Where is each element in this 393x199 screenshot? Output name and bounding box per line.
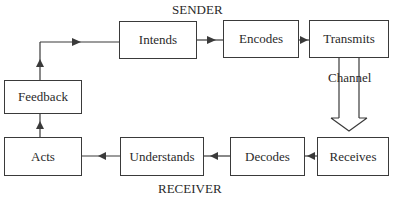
arrow-to-intends xyxy=(72,38,81,46)
box-transmits-label: Transmits xyxy=(323,31,375,47)
box-encodes: Encodes xyxy=(223,20,299,58)
arrow-to-transmits xyxy=(300,36,308,44)
box-transmits: Transmits xyxy=(309,20,389,58)
box-acts: Acts xyxy=(4,137,82,176)
channel-label: Channel xyxy=(328,70,371,86)
box-decodes: Decodes xyxy=(230,137,305,176)
box-receives: Receives xyxy=(317,137,389,176)
box-intends: Intends xyxy=(119,21,197,59)
arrow-to-understands xyxy=(210,152,218,160)
arrow-to-feedback xyxy=(36,121,44,129)
sender-title: SENDER xyxy=(172,2,223,18)
box-acts-label: Acts xyxy=(31,149,55,165)
receiver-title: RECEIVER xyxy=(158,181,222,197)
box-understands-label: Understands xyxy=(130,149,195,165)
box-decodes-label: Decodes xyxy=(245,149,290,165)
box-receives-label: Receives xyxy=(330,149,377,165)
box-intends-label: Intends xyxy=(139,32,177,48)
arrow-to-acts xyxy=(98,152,106,160)
arrow-to-encodes xyxy=(207,36,216,44)
box-feedback-label: Feedback xyxy=(18,89,68,105)
box-feedback: Feedback xyxy=(4,80,82,114)
box-understands: Understands xyxy=(120,137,204,176)
arrow-feedback-up xyxy=(36,59,44,67)
box-encodes-label: Encodes xyxy=(239,31,283,47)
arrow-to-decodes xyxy=(307,152,315,160)
channel-arrow xyxy=(331,58,367,131)
